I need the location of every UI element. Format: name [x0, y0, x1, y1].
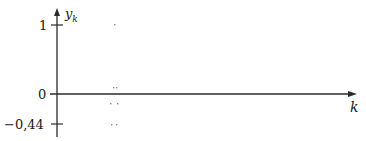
data-point	[113, 87, 114, 88]
data-point	[116, 124, 117, 125]
chart-canvas	[0, 0, 366, 141]
xlabel: k	[350, 100, 358, 114]
ylabel-sub: k	[72, 14, 77, 24]
data-point	[114, 24, 115, 25]
data-point	[110, 103, 111, 104]
ylabel: yk	[65, 7, 78, 24]
data-point	[116, 87, 117, 88]
data-point	[111, 124, 112, 125]
ytick-label-1: 1	[39, 19, 47, 32]
x-axis-arrow-icon	[348, 91, 357, 97]
data-point	[117, 103, 118, 104]
ytick-label-0: 0	[38, 88, 46, 101]
ytick-label-neg044: −0,44	[4, 118, 44, 131]
data-points	[110, 24, 118, 125]
y-axis-arrow-icon	[54, 8, 60, 16]
